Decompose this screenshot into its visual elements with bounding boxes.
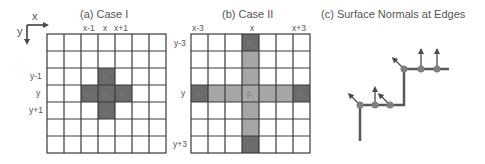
cell-label-p7: p₇ bbox=[247, 141, 254, 149]
axes-indicator bbox=[27, 25, 46, 42]
diagram-canvas: p₁ p₄ p₀ p₂ p₃ p₅ p₈ p꜀ p₆ p₇ bbox=[0, 0, 485, 164]
cell-label-p5: p₅ bbox=[247, 39, 254, 47]
edge-node bbox=[418, 66, 425, 73]
edge-node bbox=[357, 102, 364, 109]
edge-node bbox=[434, 66, 441, 73]
cell-label-pc: p꜀ bbox=[247, 90, 254, 98]
cell-label-p6: p₆ bbox=[298, 90, 305, 98]
cell-label-p0: p₀ bbox=[103, 90, 110, 98]
edge-node bbox=[401, 66, 408, 73]
panel-b-grid: p₅ p₈ p꜀ p₆ p₇ bbox=[191, 34, 310, 153]
cell-label-p1: p₁ bbox=[103, 73, 110, 81]
panel-a-grid: p₁ p₄ p₀ p₂ p₃ bbox=[47, 34, 166, 153]
edge-node bbox=[387, 102, 394, 109]
edge-node bbox=[372, 102, 379, 109]
cell-label-p3: p₃ bbox=[103, 107, 110, 115]
panel-c-edge-diagram bbox=[350, 51, 449, 141]
cell-label-p8: p₈ bbox=[196, 90, 203, 98]
cell-label-p2: p₂ bbox=[120, 90, 127, 98]
cell-label-p4: p₄ bbox=[86, 90, 93, 98]
